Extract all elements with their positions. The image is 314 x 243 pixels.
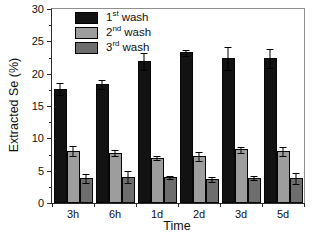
x-category-label: 1d bbox=[151, 209, 163, 220]
error-bar-cap-top bbox=[209, 177, 216, 178]
bar-2nd-wash-3d bbox=[235, 149, 248, 203]
error-bar-cap-top bbox=[238, 147, 245, 148]
bar-3rd-wash-3d bbox=[248, 178, 261, 203]
error-bar-cap-top bbox=[280, 147, 287, 148]
error-bar-cap-top bbox=[167, 176, 174, 177]
error-bar-line bbox=[228, 47, 229, 72]
x-category-label: 6h bbox=[109, 209, 121, 220]
error-bar-line bbox=[144, 53, 145, 71]
y-tick-label: 30 bbox=[32, 4, 44, 15]
error-bar-cap-bottom bbox=[267, 68, 274, 69]
x-tick bbox=[52, 203, 53, 207]
error-bar-cap-bottom bbox=[112, 156, 119, 157]
bar-3rd-wash-5d bbox=[290, 178, 303, 203]
plot-area: 1stwash 2ndwash 3rdwash 0510152025303h6h… bbox=[51, 8, 305, 204]
x-category-label: 3d bbox=[235, 209, 247, 220]
y-tick-label: 25 bbox=[32, 36, 44, 47]
y-major-tick bbox=[47, 138, 52, 139]
error-bar-cap-top bbox=[83, 174, 90, 175]
error-bar-cap-top bbox=[293, 173, 300, 174]
x-tick bbox=[304, 203, 305, 207]
x-tick bbox=[178, 203, 179, 207]
legend-item-1st-wash: 1stwash bbox=[75, 12, 151, 23]
error-bar-cap-bottom bbox=[196, 161, 203, 162]
error-bar-cap-top bbox=[154, 156, 161, 157]
y-major-tick bbox=[47, 9, 52, 10]
error-bar-cap-bottom bbox=[280, 156, 287, 157]
y-tick-label: 0 bbox=[38, 198, 44, 209]
y-minor-tick bbox=[49, 58, 52, 59]
y-major-tick bbox=[47, 106, 52, 107]
error-bar-cap-top bbox=[99, 80, 106, 81]
bar-1st-wash-3d bbox=[222, 58, 235, 203]
error-bar-cap-bottom bbox=[238, 153, 245, 154]
y-tick-label: 15 bbox=[32, 101, 44, 112]
bar-1st-wash-3h bbox=[54, 89, 67, 203]
bar-1st-wash-6h bbox=[96, 84, 109, 203]
error-bar-cap-bottom bbox=[99, 89, 106, 90]
y-minor-tick bbox=[49, 155, 52, 156]
error-bar-cap-top bbox=[251, 176, 258, 177]
x-category-label: 2d bbox=[193, 209, 205, 220]
y-axis-title: Extracted Se (%) bbox=[8, 58, 21, 152]
error-bar-cap-bottom bbox=[154, 160, 161, 161]
error-bar-cap-bottom bbox=[225, 70, 232, 71]
error-bar-cap-top bbox=[267, 49, 274, 50]
bar-3rd-wash-1d bbox=[164, 177, 177, 203]
x-axis-title: Time bbox=[163, 220, 190, 233]
error-bar-cap-top bbox=[183, 50, 190, 51]
y-major-tick bbox=[47, 74, 52, 75]
x-tick bbox=[94, 203, 95, 207]
error-bar-cap-bottom bbox=[83, 183, 90, 184]
legend-swatch-2nd-wash bbox=[75, 27, 98, 39]
bar-3rd-wash-2d bbox=[206, 179, 219, 203]
error-bar-cap-bottom bbox=[141, 70, 148, 71]
bar-2nd-wash-2d bbox=[193, 156, 206, 203]
bar-3rd-wash-6h bbox=[122, 177, 135, 204]
y-minor-tick bbox=[49, 122, 52, 123]
error-bar-cap-top bbox=[225, 47, 232, 48]
y-tick-label: 20 bbox=[32, 68, 44, 79]
y-minor-tick bbox=[49, 187, 52, 188]
error-bar-cap-bottom bbox=[70, 156, 77, 157]
bar-3rd-wash-3h bbox=[80, 178, 93, 203]
x-category-label: 5d bbox=[277, 209, 289, 220]
bar-2nd-wash-5d bbox=[277, 151, 290, 203]
error-bar-cap-bottom bbox=[209, 182, 216, 183]
error-bar-cap-bottom bbox=[183, 56, 190, 57]
x-category-label: 3h bbox=[67, 209, 79, 220]
bar-2nd-wash-3h bbox=[67, 151, 80, 203]
error-bar-line bbox=[270, 49, 271, 68]
legend-label-1st-wash: 1stwash bbox=[106, 12, 149, 23]
y-minor-tick bbox=[49, 90, 52, 91]
legend-swatch-1st-wash bbox=[75, 12, 98, 24]
error-bar-cap-top bbox=[70, 146, 77, 147]
y-minor-tick bbox=[49, 25, 52, 26]
x-tick bbox=[262, 203, 263, 207]
bar-2nd-wash-6h bbox=[109, 153, 122, 203]
error-bar-cap-top bbox=[141, 53, 148, 54]
legend-item-3rd-wash: 3rdwash bbox=[75, 42, 151, 53]
x-tick bbox=[220, 203, 221, 207]
error-bar-cap-bottom bbox=[293, 184, 300, 185]
error-bar-cap-top bbox=[112, 150, 119, 151]
error-bar-cap-top bbox=[57, 83, 64, 84]
bar-1st-wash-1d bbox=[138, 61, 151, 203]
y-tick-label: 5 bbox=[38, 165, 44, 176]
y-major-tick bbox=[47, 171, 52, 172]
error-bar-cap-bottom bbox=[251, 180, 258, 181]
error-bar-cap-top bbox=[196, 152, 203, 153]
error-bar-cap-top bbox=[125, 171, 132, 172]
legend: 1stwash 2ndwash 3rdwash bbox=[75, 12, 151, 57]
bar-2nd-wash-1d bbox=[151, 158, 164, 203]
error-bar-cap-bottom bbox=[57, 95, 64, 96]
legend-label-2nd-wash: 2ndwash bbox=[106, 27, 151, 38]
figure: Extracted Se (%) 1stwash 2ndwash 3rdwash… bbox=[0, 0, 314, 243]
y-tick-label: 10 bbox=[32, 133, 44, 144]
error-bar-cap-bottom bbox=[167, 179, 174, 180]
error-bar-cap-bottom bbox=[125, 183, 132, 184]
bar-1st-wash-5d bbox=[264, 58, 277, 203]
y-major-tick bbox=[47, 41, 52, 42]
bar-1st-wash-2d bbox=[180, 52, 193, 203]
legend-swatch-3rd-wash bbox=[75, 42, 98, 54]
